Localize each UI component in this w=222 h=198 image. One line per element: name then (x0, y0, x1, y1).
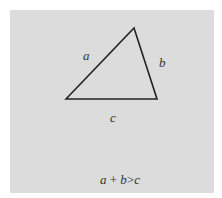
caption-a: a (100, 172, 107, 187)
side-label-c: c (110, 110, 116, 125)
inequality-caption: a + b>c (100, 172, 140, 187)
side-label-b: b (159, 55, 166, 70)
caption-c: c (134, 172, 140, 187)
caption-plus: + (110, 172, 117, 187)
triangle-shape (66, 28, 157, 99)
caption-gt: > (127, 172, 134, 187)
side-label-a: a (83, 48, 90, 63)
triangle-diagram: a b c a + b>c (0, 0, 222, 198)
